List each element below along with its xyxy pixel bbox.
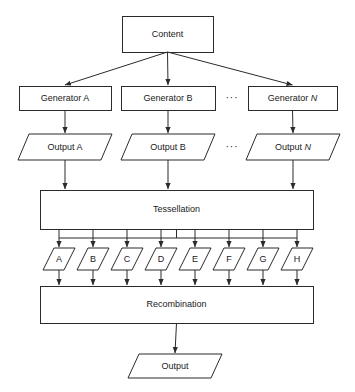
ellipsis-0: ··· — [226, 92, 239, 103]
node-output-0: Output A — [18, 134, 112, 160]
node-tile-d: D — [145, 248, 177, 270]
edge-content-to-generator-2 — [168, 52, 293, 85]
ellipsis-1: ··· — [226, 141, 239, 152]
diagram-nodes: ContentGenerator AGenerator BGenerator N… — [18, 17, 340, 379]
node-recombination-label: Recombination — [146, 299, 206, 309]
node-tile-b: B — [77, 248, 109, 270]
node-generator-1: Generator B — [122, 87, 216, 111]
node-tile-f-label: F — [226, 254, 232, 264]
node-tile-a-label: A — [56, 254, 62, 264]
edge-recombination-to-output — [175, 323, 177, 353]
node-output-2-label: Output N — [275, 142, 312, 152]
node-final-output: Output — [128, 354, 222, 378]
node-tessellation-label: Tessellation — [153, 204, 200, 214]
edge-generator-to-output-2 — [293, 110, 294, 133]
node-tile-a: A — [43, 248, 75, 270]
node-tile-f: F — [213, 248, 245, 270]
node-tile-e: E — [179, 248, 211, 270]
node-generator-0-label: Generator A — [41, 93, 90, 103]
node-generator-0: Generator A — [20, 87, 112, 111]
edge-content-to-generator-1 — [168, 52, 169, 85]
node-generator-2: Generator N — [249, 87, 338, 111]
node-tile-e-label: E — [192, 254, 198, 264]
node-tile-g-label: G — [259, 254, 266, 264]
node-output-1-label: Output B — [150, 142, 186, 152]
node-content-label: Content — [152, 29, 184, 39]
node-tile-g: G — [247, 248, 279, 270]
node-final-output-label: Output — [161, 361, 189, 371]
node-tile-c: C — [111, 248, 143, 270]
node-tessellation: Tessellation — [41, 191, 314, 230]
flowchart-diagram: ContentGenerator AGenerator BGenerator N… — [0, 0, 355, 392]
node-tile-h: H — [281, 248, 313, 270]
node-output-2: Output N — [246, 134, 340, 160]
node-generator-1-label: Generator B — [143, 93, 192, 103]
node-recombination: Recombination — [41, 287, 314, 324]
node-output-0-label: Output A — [47, 142, 82, 152]
node-generator-2-label: Generator N — [268, 93, 318, 103]
node-tile-d-label: D — [158, 254, 165, 264]
node-content: Content — [123, 17, 214, 53]
node-output-1: Output B — [121, 134, 215, 160]
node-tile-c-label: C — [124, 254, 131, 264]
edge-content-to-generator-0 — [65, 52, 168, 85]
diagram-canvas: ContentGenerator AGenerator BGenerator N… — [0, 0, 355, 392]
node-tile-b-label: B — [90, 254, 96, 264]
node-tile-h-label: H — [294, 254, 301, 264]
